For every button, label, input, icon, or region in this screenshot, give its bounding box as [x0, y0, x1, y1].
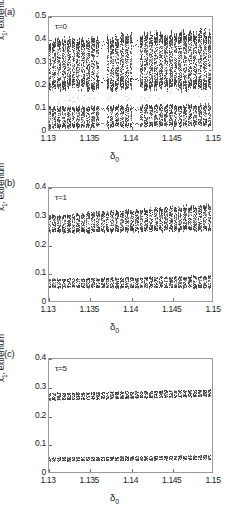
- x-tick-label: 1.145: [152, 304, 192, 314]
- x-tick-label: 1.15: [193, 304, 229, 314]
- x-tick-mark: [132, 127, 133, 130]
- panel-a: (a) x1, extremum τ=0 δ0 0.50.40.30.20.10…: [0, 0, 229, 171]
- y-tick-mark: [49, 86, 52, 87]
- y-tick-label: 0.2: [26, 79, 46, 89]
- x-tick-mark: [49, 298, 50, 301]
- panel-c: (c) x1, extremum τ=5 δ0 0.40.30.20.101.1…: [0, 342, 229, 513]
- y-tick-label: 0.2: [26, 239, 46, 249]
- y-tick-label: 0.4: [26, 181, 46, 191]
- panel-c-plot-area: τ=5: [48, 358, 213, 473]
- x-tick-label: 1.13: [28, 133, 68, 143]
- bifurcation-figure: (a) x1, extremum τ=0 δ0 0.50.40.30.20.10…: [0, 0, 229, 513]
- y-tick-mark: [49, 17, 52, 18]
- x-tick-mark: [90, 298, 91, 301]
- x-tick-mark: [173, 469, 174, 472]
- y-tick-mark: [49, 445, 52, 446]
- x-tick-mark: [132, 469, 133, 472]
- x-tick-label: 1.13: [28, 304, 68, 314]
- x-tick-label: 1.145: [152, 133, 192, 143]
- x-tick-mark: [49, 469, 50, 472]
- y-tick-label: 0.1: [26, 102, 46, 112]
- x-tick-label: 1.15: [193, 475, 229, 485]
- panel-b-scatter-points: [49, 188, 212, 301]
- y-tick-label: 0.3: [26, 56, 46, 66]
- y-tick-mark: [49, 388, 52, 389]
- panel-c-x-axis-label: δ0: [0, 492, 229, 505]
- x-tick-label: 1.14: [111, 133, 151, 143]
- panel-b-y-axis-label: x1, extremum: [0, 163, 8, 211]
- panel-a-tau-annotation: τ=0: [55, 22, 67, 31]
- y-tick-label: 0.4: [26, 352, 46, 362]
- panel-a-plot-area: τ=0: [48, 16, 213, 131]
- panel-c-scatter-points: [49, 359, 212, 472]
- y-tick-mark: [49, 188, 52, 189]
- y-tick-label: 0.2: [26, 410, 46, 420]
- x-tick-mark: [90, 127, 91, 130]
- panel-a-y-axis-label: x1, extremum: [0, 0, 8, 40]
- y-tick-label: 0.3: [26, 210, 46, 220]
- x-tick-label: 1.14: [111, 475, 151, 485]
- panel-c-y-axis-label: x1, extremum: [0, 334, 8, 382]
- x-tick-label: 1.135: [69, 304, 109, 314]
- panel-b-tau-annotation: τ=1: [55, 193, 67, 202]
- y-tick-label: 0.1: [26, 267, 46, 277]
- x-tick-mark: [173, 298, 174, 301]
- x-tick-label: 1.15: [193, 133, 229, 143]
- y-tick-mark: [49, 109, 52, 110]
- x-tick-label: 1.14: [111, 304, 151, 314]
- y-tick-mark: [49, 417, 52, 418]
- x-tick-label: 1.13: [28, 475, 68, 485]
- y-tick-mark: [49, 217, 52, 218]
- y-tick-mark: [49, 274, 52, 275]
- y-tick-label: 0.4: [26, 33, 46, 43]
- x-tick-mark: [173, 127, 174, 130]
- y-tick-mark: [49, 40, 52, 41]
- x-tick-label: 1.135: [69, 475, 109, 485]
- y-tick-mark: [49, 246, 52, 247]
- x-tick-label: 1.135: [69, 133, 109, 143]
- panel-a-x-axis-label: δ0: [0, 150, 229, 163]
- y-tick-mark: [49, 359, 52, 360]
- panel-c-tau-annotation: τ=5: [55, 364, 67, 373]
- panel-a-scatter-points: [49, 17, 212, 130]
- panel-b-plot-area: τ=1: [48, 187, 213, 302]
- y-tick-label: 0.5: [26, 10, 46, 20]
- y-tick-label: 0.1: [26, 438, 46, 448]
- y-tick-mark: [49, 63, 52, 64]
- x-tick-label: 1.145: [152, 475, 192, 485]
- panel-b-x-axis-label: δ0: [0, 321, 229, 334]
- x-tick-mark: [132, 298, 133, 301]
- x-tick-mark: [49, 127, 50, 130]
- y-tick-label: 0.3: [26, 381, 46, 391]
- panel-b: (b) x1, extremum τ=1 δ0 0.40.30.20.101.1…: [0, 171, 229, 342]
- x-tick-mark: [90, 469, 91, 472]
